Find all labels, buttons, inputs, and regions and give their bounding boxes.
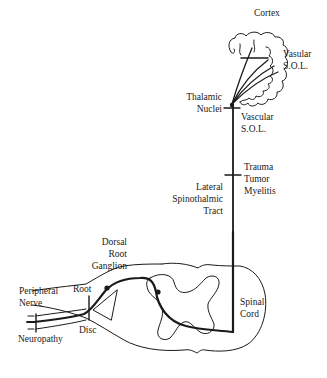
neuropathy-label: Neuropathy xyxy=(18,334,63,345)
root-label: Root xyxy=(73,284,91,295)
thalamic-vascular-sol-label-2: S.O.L. xyxy=(241,124,266,135)
dorsal-root-ganglion-node xyxy=(104,285,109,290)
spinal-cord-label-2: Cord xyxy=(240,309,259,320)
thalamic-nuclei-label-2: Nuclei xyxy=(197,104,222,115)
dorsal-root-ganglion-label-2: Root xyxy=(109,249,127,260)
pain-pathway-diagram xyxy=(0,0,327,378)
cortex-fold xyxy=(240,40,255,55)
spinal-cord-label-1: Spinal xyxy=(240,297,264,308)
tumor-label: Tumor xyxy=(244,174,270,185)
afferent-fiber xyxy=(34,232,233,332)
thalamocortical-fiber-1 xyxy=(232,48,252,104)
dorsal-root-ganglion-label-1: Dorsal xyxy=(102,237,127,248)
lateral-spinothalamic-label-1: Lateral xyxy=(196,182,223,193)
thalamic-nuclei-label-1: Thalamic xyxy=(186,92,222,103)
cortex-vascular-sol-label-2: S.O.L. xyxy=(283,61,308,72)
cortex-vascular-sol-label-1: Vasular xyxy=(283,49,312,60)
trauma-label: Trauma xyxy=(244,162,273,173)
myelitis-label: Myelitis xyxy=(244,186,276,197)
peripheral-nerve-label-1: Peripheral xyxy=(19,286,58,297)
thalamic-vascular-sol-label-1: Vascular xyxy=(241,112,274,123)
peripheral-nerve-label-2: Nerve xyxy=(19,298,42,309)
dorsal-root-ganglion-label-3: Ganglion xyxy=(92,261,127,272)
lateral-spinothalamic-label-3: Tract xyxy=(203,206,223,217)
ganglion-triangle xyxy=(93,290,117,320)
disc-label: Disc xyxy=(79,325,96,336)
lateral-spinothalamic-label-2: Spinothalmic xyxy=(172,194,223,205)
spinal-cord-outline xyxy=(32,263,266,353)
cortex-label: Cortex xyxy=(254,8,280,19)
dorsal-horn-node xyxy=(155,289,160,294)
